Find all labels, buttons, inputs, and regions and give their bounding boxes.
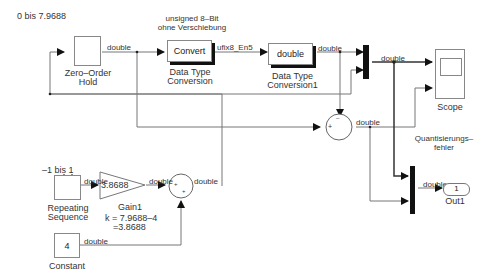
out1-content: 1	[444, 184, 469, 193]
scope-screen-icon	[440, 58, 462, 76]
signal-dtc1-out: double	[318, 44, 342, 53]
error-label-2: fehler	[404, 143, 482, 152]
repeating-name-2: Sequence	[38, 213, 98, 222]
signal-dtc-out: ufix8_En5	[217, 43, 253, 52]
conversion-note-2: ohne Verschiebung	[152, 23, 232, 32]
dtc1-content: double	[269, 49, 312, 59]
signal-gain-out: double	[149, 177, 173, 186]
gain-name: Gain1	[110, 203, 150, 212]
mux-out	[410, 166, 415, 214]
signal-sum-out: double	[356, 118, 380, 127]
zoh-name-2: Hold	[58, 78, 118, 87]
constant-name: Constant	[42, 262, 92, 271]
dtc1-name-2: Conversion1	[260, 81, 325, 90]
sum-plus-sign: +	[328, 122, 332, 131]
signal-const-out: double	[84, 237, 108, 246]
gain-formula-2: =3.8688	[113, 223, 146, 232]
signal-mux-out: double	[381, 54, 405, 63]
repeating-sequence-block[interactable]	[54, 175, 81, 200]
range-bottom-label: –1 bis 1	[42, 166, 74, 175]
sum2-plus-1: +	[174, 180, 178, 189]
data-type-conversion-block[interactable]: Convert	[167, 40, 212, 62]
sum2-plus-2: +	[182, 187, 186, 196]
data-type-conversion1-block[interactable]: double	[268, 43, 313, 65]
mux-scope	[363, 45, 369, 79]
signal-zoh-out: double	[107, 43, 131, 52]
out1-name: Out1	[440, 197, 470, 206]
dtc-name-2: Conversion	[160, 77, 220, 86]
sum-minus-sign: –	[336, 114, 339, 123]
range-top-label: 0 bis 7.9688	[17, 12, 66, 21]
conversion-note-1: unsigned 8–Bit	[152, 14, 232, 23]
scope-name: Scope	[430, 103, 470, 112]
constant-content: 4	[55, 241, 79, 251]
dtc-content: Convert	[168, 46, 211, 56]
error-label-1: Quantisierungs–	[404, 134, 482, 143]
out1-port[interactable]: 1	[443, 183, 470, 196]
gain-content: 3.8688	[101, 181, 129, 190]
constant-block[interactable]: 4	[54, 233, 80, 258]
scope-block[interactable]	[435, 49, 465, 99]
signal-sum2-out: double	[194, 177, 218, 186]
zero-order-hold-block[interactable]	[74, 36, 101, 66]
